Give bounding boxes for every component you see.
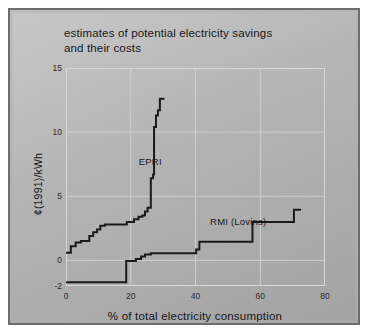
y-tick-label: 10: [44, 127, 62, 137]
x-tick-label: 60: [249, 291, 271, 301]
chart-title: estimates of potential electricity savin…: [64, 26, 334, 56]
chart-page: estimates of potential electricity savin…: [0, 0, 368, 333]
chart-title-line-2: and their costs: [64, 41, 334, 56]
y-tick-label: 0: [44, 255, 62, 265]
series-line-epri: [66, 99, 164, 253]
figure-frame: estimates of potential electricity savin…: [8, 8, 360, 325]
plot-area: EPRIRMI (Lovins): [66, 68, 325, 286]
x-tick-label: 80: [314, 291, 336, 301]
y-tick-label: -2: [44, 281, 62, 291]
x-tick-label: 40: [185, 291, 207, 301]
x-axis-title: % of total electricity consumption: [50, 310, 340, 322]
plot-svg: [66, 68, 325, 286]
y-tick-label: 15: [44, 63, 62, 73]
y-tick-label: 5: [44, 191, 62, 201]
chart-title-line-1: estimates of potential electricity savin…: [64, 26, 334, 41]
series-layer: [66, 99, 301, 282]
y-axis-title: ¢(1991)/kWh: [32, 109, 44, 259]
x-tick-label: 0: [55, 291, 77, 301]
series-annotation-rmi-lovins: RMI (Lovins): [210, 216, 266, 227]
series-annotation-epri: EPRI: [139, 156, 162, 167]
x-tick-label: 20: [120, 291, 142, 301]
